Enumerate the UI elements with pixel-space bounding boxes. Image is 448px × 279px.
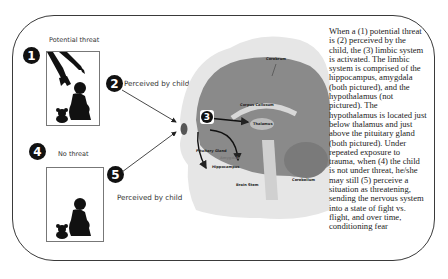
label-corpus-callosum: Corpus Callosum [240, 103, 274, 107]
label-pituitary-gland: Pituitary Gland [196, 149, 227, 153]
step-3-number: 3 [201, 111, 213, 123]
description-text: When a (1) potential threat is (2) perce… [329, 27, 427, 232]
label-hippocampus: Hippocampus [212, 165, 239, 169]
label-thalamus: Thalamus [253, 122, 273, 126]
label-brain-stem: Brain Stem [236, 183, 258, 187]
label-amygdala: Amygdala [220, 156, 240, 160]
step-3-badge: 3 [200, 110, 214, 124]
label-cerebrum: Cerebrum [266, 57, 286, 61]
label-cerebellum: Cerebellum [292, 178, 315, 182]
